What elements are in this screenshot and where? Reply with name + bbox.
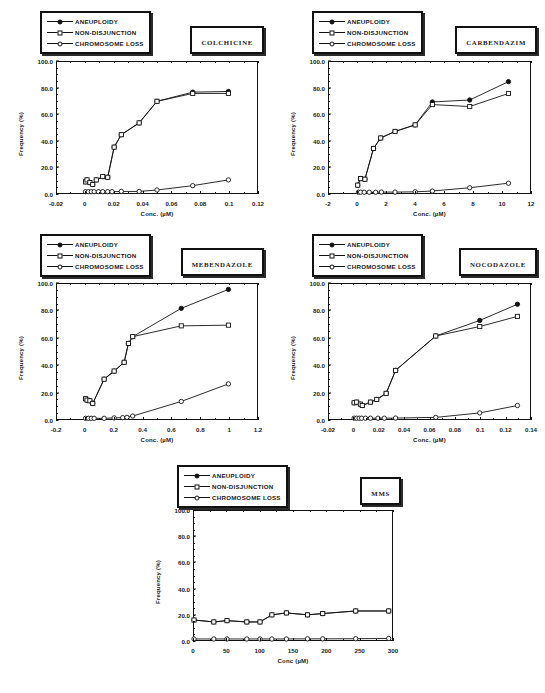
series-non-disjunction <box>83 323 230 405</box>
y-axis-tick-label: 80.0 <box>166 533 190 540</box>
x-axis-tick-label: 0.14 <box>525 426 537 433</box>
y-axis-title: Frequency (%) <box>290 112 296 156</box>
y-axis-minor-tick <box>56 338 58 339</box>
y-axis-minor-tick <box>56 134 58 135</box>
y-axis-minor-tick <box>193 536 195 537</box>
plot-area-colchicine <box>56 61 258 194</box>
chart-panel-carbendazim: ANEUPLOIDYNON-DISJUNCTIONCHROMOSOME LOSS… <box>272 0 545 232</box>
x-axis-minor-tick <box>328 418 329 420</box>
series-chromosome-loss <box>192 636 391 641</box>
x-axis-minor-tick <box>328 192 329 194</box>
x-axis-minor-tick-top <box>70 283 71 285</box>
series-line <box>86 289 229 403</box>
y-axis-minor-tick <box>56 365 58 366</box>
x-axis-tick-label: 0.2 <box>109 426 118 433</box>
filled-circle-icon <box>182 470 212 481</box>
y-axis-minor-tick <box>328 161 330 162</box>
series-layer <box>329 62 530 193</box>
x-axis-tick-label: 12 <box>528 200 535 207</box>
x-axis-minor-tick <box>114 418 115 420</box>
data-point <box>94 178 98 182</box>
data-point <box>102 377 106 381</box>
legend-item-aneuploidy: ANEUPLOIDY <box>45 16 144 27</box>
x-axis-minor-tick <box>143 418 144 420</box>
series-aneuploidy <box>83 89 230 186</box>
y-axis-minor-tick <box>56 101 58 102</box>
data-point <box>284 611 288 615</box>
data-point <box>363 177 367 181</box>
x-axis-minor-tick <box>99 418 100 420</box>
y-axis-title: Frequency (%) <box>155 560 161 604</box>
data-point <box>321 611 325 615</box>
legend-item-label: ANEUPLOIDY <box>75 18 118 25</box>
series-layer <box>329 284 530 419</box>
y-axis-minor-tick <box>56 290 58 291</box>
legend-item-label: CHROMOSOME LOSS <box>347 40 416 47</box>
y-axis-tick-label: 60.0 <box>301 334 325 341</box>
legend-item-label: NON-DISJUNCTION <box>212 483 274 490</box>
filled-circle-icon <box>45 16 75 27</box>
x-axis-minor-tick-top <box>468 283 469 285</box>
chart-title-box-mms: MMS <box>360 477 401 505</box>
legend-item-label: NON-DISJUNCTION <box>347 29 409 36</box>
x-axis-minor-tick <box>376 639 377 641</box>
x-axis-minor-tick <box>415 192 416 194</box>
x-axis-tick-label: 0.8 <box>196 426 205 433</box>
series-layer <box>57 284 257 419</box>
x-axis-minor-tick-top <box>488 61 489 63</box>
x-axis-minor-tick-top <box>415 61 416 63</box>
plot-area-carbendazim <box>328 61 531 194</box>
y-axis-minor-tick <box>56 174 58 175</box>
x-axis-minor-tick-top <box>193 510 194 512</box>
data-point <box>413 123 417 127</box>
data-point <box>321 637 325 641</box>
open-circle-icon <box>317 38 347 49</box>
y-axis-minor-tick <box>328 101 330 102</box>
y-axis-minor-tick <box>193 556 195 557</box>
data-point <box>393 416 397 420</box>
y-axis-minor-tick <box>193 608 195 609</box>
x-axis-minor-tick-top <box>430 283 431 285</box>
data-point <box>179 399 183 403</box>
x-axis-minor-tick-top <box>70 61 71 63</box>
legend-item-aneuploidy: ANEUPLOIDY <box>45 239 144 250</box>
data-point <box>191 91 195 95</box>
y-axis-minor-tick <box>193 549 195 550</box>
x-axis-tick-label: 6 <box>442 200 445 207</box>
x-axis-minor-tick-top <box>480 283 481 285</box>
y-axis-minor-tick <box>193 543 195 544</box>
data-point <box>101 190 105 194</box>
x-axis-minor-tick <box>506 418 507 420</box>
data-point <box>212 637 216 641</box>
y-axis-minor-tick <box>56 324 58 325</box>
x-axis-minor-tick-top <box>157 283 158 285</box>
x-axis-minor-tick-top <box>372 61 373 63</box>
x-axis-title: Conc. (µM) <box>328 437 531 443</box>
y-axis-minor-tick <box>328 181 330 182</box>
x-axis-tick-label: -0.02 <box>321 426 335 433</box>
y-axis-minor-tick <box>328 128 330 129</box>
y-axis-minor-tick <box>193 615 195 616</box>
y-axis-minor-tick <box>328 187 330 188</box>
x-axis-minor-tick <box>455 418 456 420</box>
data-point <box>354 637 358 641</box>
data-point <box>226 382 230 386</box>
series-non-disjunction <box>352 314 519 407</box>
y-axis-minor-tick <box>56 154 58 155</box>
y-axis-minor-tick <box>56 141 58 142</box>
x-axis-minor-tick <box>366 418 367 420</box>
x-axis-minor-tick-top <box>343 510 344 512</box>
legend-item-label: ANEUPLOIDY <box>212 472 255 479</box>
series-line <box>86 91 229 184</box>
series-aneuploidy <box>352 302 520 408</box>
x-axis-minor-tick <box>186 192 187 194</box>
chart-panel-mebendazole: ANEUPLOIDYNON-DISJUNCTIONCHROMOSOME LOSS… <box>0 232 272 465</box>
y-axis-minor-tick <box>56 386 58 387</box>
data-point <box>394 368 398 372</box>
x-axis-minor-tick-top <box>229 283 230 285</box>
x-axis-tick-label: 8 <box>471 200 474 207</box>
data-point <box>121 415 125 419</box>
series-line <box>86 384 229 418</box>
y-axis-minor-tick <box>328 324 330 325</box>
open-circle-icon <box>45 261 75 272</box>
